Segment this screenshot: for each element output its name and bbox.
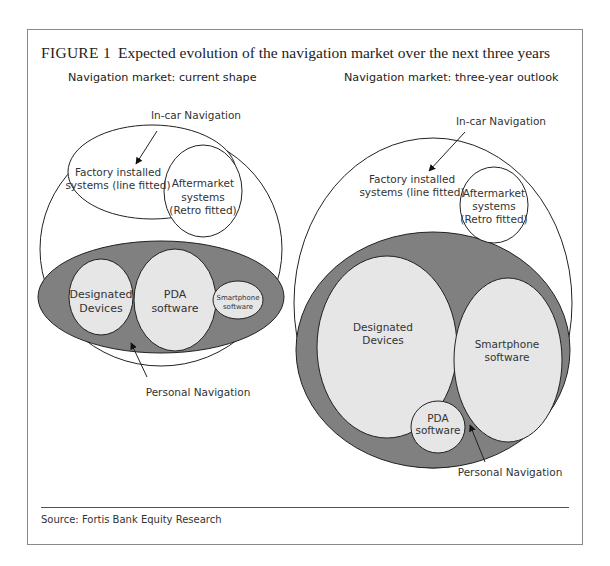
left-designated-label-1: Designated bbox=[70, 288, 133, 301]
left-aftermarket-label-2: systems bbox=[181, 191, 224, 203]
left-pda-label-1: PDA bbox=[164, 288, 187, 301]
right-designated-label-2: Devices bbox=[362, 334, 403, 346]
source-note: Source: Fortis Bank Equity Research bbox=[41, 514, 222, 525]
right-pda-label-2: software bbox=[415, 424, 460, 436]
right-diagram: In-car Navigation Factory installed syst… bbox=[294, 115, 572, 478]
left-factory-label-1: Factory installed bbox=[75, 166, 161, 178]
left-designated-label-2: Devices bbox=[79, 302, 123, 315]
left-aftermarket-label-3: (Retro fitted) bbox=[169, 204, 236, 216]
left-smartphone-label-1: Smartphone bbox=[216, 294, 259, 302]
right-aftermarket-label-2: systems bbox=[472, 200, 515, 212]
source-divider bbox=[41, 507, 569, 508]
right-smartphone-label-1: Smartphone bbox=[475, 338, 540, 350]
right-aftermarket-label-1: Aftermarket bbox=[463, 187, 525, 199]
right-designated-label-1: Designated bbox=[353, 321, 413, 333]
left-diagram: In-car Navigation Factory installed syst… bbox=[38, 109, 284, 398]
right-factory-label-2: systems (line fitted) bbox=[359, 186, 464, 198]
left-aftermarket-label-1: Aftermarket bbox=[172, 177, 234, 189]
right-factory-label-1: Factory installed bbox=[369, 173, 455, 185]
left-pda-label-2: software bbox=[151, 302, 198, 315]
venn-diagrams: In-car Navigation Factory installed syst… bbox=[0, 0, 610, 566]
right-personal-label: Personal Navigation bbox=[458, 466, 563, 478]
left-incar-label: In-car Navigation bbox=[151, 109, 241, 121]
left-factory-label-2: systems (line fitted) bbox=[65, 179, 170, 191]
right-pda-label-1: PDA bbox=[427, 412, 449, 424]
left-smartphone-label-2: software bbox=[223, 303, 253, 311]
left-personal-label: Personal Navigation bbox=[146, 386, 251, 398]
right-incar-label: In-car Navigation bbox=[456, 115, 546, 127]
right-aftermarket-label-3: (Retro fitted) bbox=[460, 213, 527, 225]
right-smartphone-label-2: software bbox=[484, 351, 529, 363]
